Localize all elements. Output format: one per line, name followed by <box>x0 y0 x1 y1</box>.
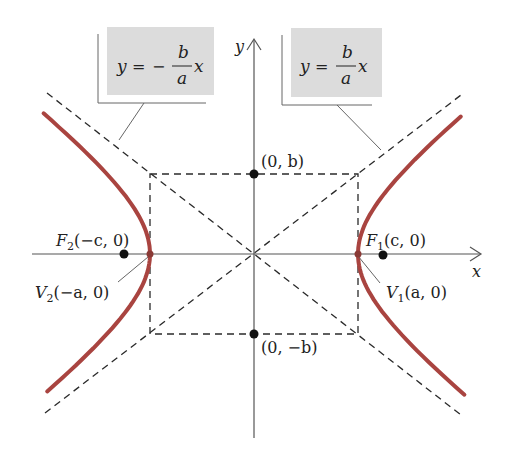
focus-left-point <box>120 250 129 259</box>
vertex-right-point <box>355 251 362 258</box>
diagram-canvas: y = − b a x y = b a x x y <box>0 0 509 464</box>
eq-lhs: y <box>116 56 127 76</box>
focus-left-label: F2(−c, 0) <box>55 231 129 253</box>
callout-negative-asymptote: y = − b a x <box>98 27 214 140</box>
eq-denominator: a <box>177 68 187 88</box>
eq-variable: x <box>358 56 368 76</box>
vertex-left-label: V2(−a, 0) <box>35 283 109 305</box>
focus-right-label: F1(c, 0) <box>365 231 426 253</box>
co-vertex-top-label: (0, b) <box>261 152 304 171</box>
eq-lhs: y <box>299 56 310 76</box>
eq-equals: = <box>315 57 328 76</box>
callout-positive-asymptote: y = b a x <box>282 28 382 150</box>
eq-numerator: b <box>178 42 189 62</box>
co-vertex-top-point <box>250 170 259 179</box>
vertex-left-point <box>147 251 154 258</box>
hyperbola-right-branch <box>358 117 464 395</box>
eq-numerator: b <box>342 42 353 62</box>
co-vertex-bottom-point <box>250 330 259 339</box>
co-vertex-bottom-label: (0, −b) <box>261 338 317 357</box>
vertex-right-label: V1(a, 0) <box>386 283 447 305</box>
x-axis-label: x <box>472 262 481 281</box>
callout-leader-line <box>119 103 144 140</box>
hyperbola-diagram: y = − b a x y = b a x x y <box>0 0 509 464</box>
eq-denominator: a <box>341 68 351 88</box>
callout-leader-line <box>337 105 381 150</box>
eq-sign: − <box>152 57 165 76</box>
y-axis-label: y <box>234 37 245 56</box>
eq-variable: x <box>194 56 204 76</box>
eq-equals: = <box>132 57 145 76</box>
hyperbola-left-branch <box>44 113 150 391</box>
